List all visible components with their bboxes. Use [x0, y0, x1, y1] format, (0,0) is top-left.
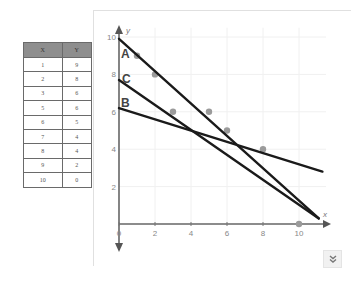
y-axis-label: y — [125, 26, 131, 35]
x-axis-label: x — [322, 210, 328, 219]
data-point — [170, 109, 176, 115]
line-a[interactable] — [119, 39, 319, 219]
y-tick-label: 6 — [112, 108, 117, 117]
x-tick-label: 8 — [261, 229, 266, 238]
expand-button[interactable] — [323, 250, 342, 268]
x-tick-label: 10 — [295, 229, 304, 238]
line-b[interactable] — [119, 108, 322, 172]
y-axis-up-arrow-icon — [115, 25, 123, 34]
data-point — [206, 109, 212, 115]
scatter-plot[interactable]: y x 0246810 246810 A C B — [0, 0, 360, 285]
y-tick-label: 2 — [112, 183, 117, 192]
y-axis-down-arrow-icon — [115, 243, 123, 252]
x-tick-label: 6 — [225, 229, 230, 238]
line-label-c: C — [122, 72, 131, 86]
line-label-a: A — [121, 47, 130, 61]
y-tick-label: 10 — [107, 33, 116, 42]
y-tick-labels: 246810 — [107, 33, 116, 192]
y-tick-label: 4 — [112, 145, 117, 154]
line-labels: A C B — [121, 47, 131, 110]
double-chevron-down-icon — [328, 254, 338, 264]
grid-lines — [119, 28, 326, 224]
fit-lines[interactable] — [119, 39, 322, 219]
x-tick-label: 0 — [117, 229, 122, 238]
x-tick-label: 2 — [153, 229, 158, 238]
y-tick-label: 8 — [112, 70, 117, 79]
x-tick-label: 4 — [189, 229, 194, 238]
x-axis-arrow-icon — [323, 220, 331, 228]
data-point — [296, 221, 302, 227]
line-label-b: B — [121, 96, 130, 110]
